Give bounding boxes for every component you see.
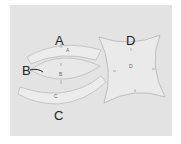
piece-b <box>30 58 100 79</box>
piece-c <box>18 76 106 104</box>
piece-b-mark: B <box>59 72 62 77</box>
piece-d-mark: D <box>129 64 133 69</box>
label-a: A <box>55 34 64 47</box>
piece-a-mark: A <box>66 48 69 53</box>
label-b: B <box>22 64 31 77</box>
label-d: D <box>126 34 135 47</box>
piece-c-mark: C <box>54 94 58 99</box>
label-c: C <box>54 109 63 122</box>
